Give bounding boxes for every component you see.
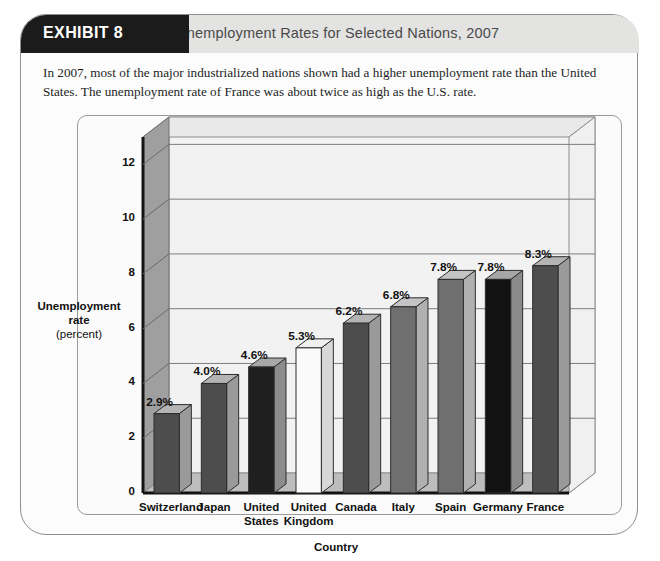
y-axis-tick-label: 2: [113, 430, 135, 442]
y-axis-title-line1: Unemployment: [21, 299, 137, 313]
exhibit-description: In 2007, most of the major industrialize…: [43, 63, 619, 101]
bar-value-label: 2.9%: [140, 395, 179, 409]
x-axis-title: Country: [77, 541, 595, 553]
bar-value-label: 5.3%: [282, 329, 321, 343]
y-axis-title-units: (percent): [21, 327, 137, 341]
y-axis-tick-label: 10: [113, 211, 135, 223]
bar-value-label: 7.8%: [471, 260, 510, 274]
y-axis-title: Unemploymentrate(percent): [21, 299, 137, 342]
y-axis-tick-label: 8: [113, 266, 135, 278]
exhibit-header: Unemployment Rates for Selected Nations,…: [21, 15, 639, 53]
exhibit-title: Unemployment Rates for Selected Nations,…: [176, 25, 499, 41]
bar-value-label: 8.3%: [519, 247, 558, 261]
bar: [485, 270, 522, 493]
bar-chart-plot: [77, 115, 622, 525]
y-axis-tick-label: 12: [113, 156, 135, 168]
x-axis-tick-label: France: [518, 501, 573, 515]
exhibit-number-label: EXHIBIT 8: [43, 24, 123, 42]
bar: [533, 257, 570, 493]
bar: [296, 339, 333, 493]
bar: [249, 358, 286, 493]
chart-container: 0246810122.9%Switzerland4.0%Japan4.6%Uni…: [77, 115, 622, 525]
y-axis-title-line2: rate: [21, 313, 137, 327]
y-axis-tick-label: 4: [113, 375, 135, 387]
exhibit-page: Unemployment Rates for Selected Nations,…: [20, 14, 638, 535]
bar-value-label: 6.8%: [377, 288, 416, 302]
bar-value-label: 4.0%: [187, 364, 226, 378]
bar: [391, 298, 428, 493]
bar: [201, 374, 238, 493]
bar-value-label: 7.8%: [424, 260, 463, 274]
bar: [438, 270, 475, 493]
bar-value-label: 4.6%: [235, 348, 274, 362]
bar: [343, 314, 380, 493]
bar-value-label: 6.2%: [329, 304, 368, 318]
bar: [154, 405, 191, 493]
y-axis-tick-label: 0: [113, 485, 135, 497]
